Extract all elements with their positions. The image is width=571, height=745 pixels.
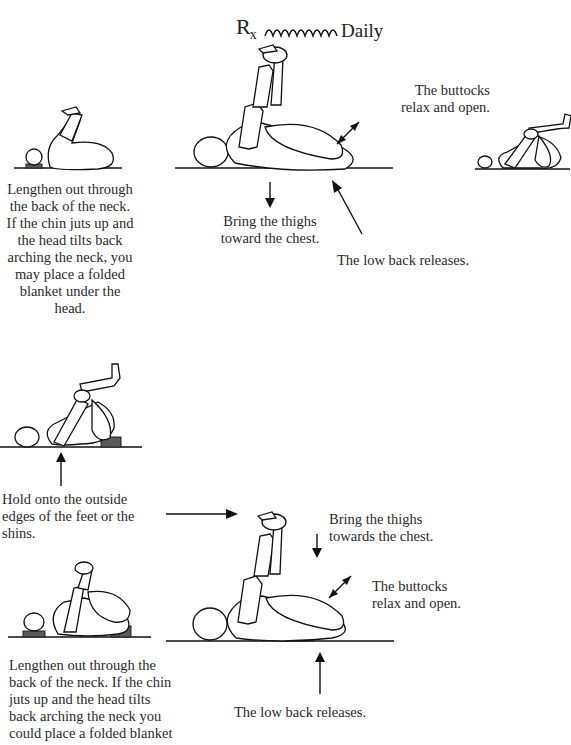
caption-line: back of the neck. If the chin <box>9 674 209 691</box>
callout-line: Bring the thighs <box>210 213 330 230</box>
bottom-buttocks-callout: The buttocks relax and open. <box>372 578 461 612</box>
double-arrow-icon <box>333 118 363 148</box>
bottom-left-caption: Lengthen out through the back of the nec… <box>9 657 209 742</box>
head-shape <box>193 608 227 640</box>
pose-figure-small-left <box>0 105 135 170</box>
rx-subscript: x <box>250 27 257 42</box>
callout-line: towards the chest. <box>329 528 433 545</box>
caption-line: may place a folded <box>0 266 140 283</box>
rx-symbol: Rx <box>236 14 258 40</box>
caption-line: head. <box>0 300 140 317</box>
top-thighs-callout: Bring the thighs toward the chest. <box>210 213 330 247</box>
caption-line: the head tilts back <box>0 232 140 249</box>
head-shape <box>15 427 39 447</box>
bottom-thighs-callout: Bring the thighs towards the chest. <box>329 511 433 545</box>
caption-line: edges of the feet or the <box>2 508 172 525</box>
bottom-low-back-callout: The low back releases. <box>234 704 366 721</box>
wavy-line-icon <box>263 24 341 38</box>
caption-line: arching the neck, you <box>0 249 140 266</box>
up-arrow-icon <box>55 452 67 486</box>
top-low-back-callout: The low back releases. <box>337 252 469 269</box>
rx-letter: R <box>236 14 251 39</box>
callout-line: The buttocks <box>372 578 461 595</box>
down-arrow-icon <box>311 534 323 558</box>
head-shape <box>194 137 228 167</box>
caption-line: Lengthen out through <box>0 181 140 198</box>
frequency-label: Daily <box>341 20 383 42</box>
head-shape <box>478 156 492 168</box>
callout-line: The buttocks <box>378 82 490 99</box>
caption-line: juts up and the head tilts <box>9 691 209 708</box>
caption-line: could place a folded blanket <box>9 725 209 742</box>
pose-figure-hold-feet <box>0 360 145 450</box>
callout-line: Bring the thighs <box>329 511 433 528</box>
pose-figure-small-bottom <box>8 558 153 640</box>
hold-caption: Hold onto the outside edges of the feet … <box>2 491 172 542</box>
down-arrow-icon <box>264 182 276 208</box>
head-shape <box>24 613 44 631</box>
caption-line: the back of the neck. <box>0 198 140 215</box>
top-buttocks-callout: The buttocks relax and open. <box>378 82 490 116</box>
head-shape <box>26 149 42 165</box>
callout-line: toward the chest. <box>210 230 330 247</box>
caption-line: If the chin juts up and <box>0 215 140 232</box>
caption-line: Lengthen out through the <box>9 657 209 674</box>
pose-figure-small-right <box>465 112 571 172</box>
caption-line: Hold onto the outside <box>2 491 172 508</box>
up-arrow-icon <box>314 652 326 694</box>
caption-line: blanket under the <box>0 283 140 300</box>
pose-figure-large-top <box>175 45 395 170</box>
double-arrow-icon <box>325 572 355 602</box>
diagonal-arrow-icon <box>330 180 366 236</box>
caption-line: back arching the neck you <box>9 708 209 725</box>
top-left-caption: Lengthen out through the back of the nec… <box>0 181 140 317</box>
callout-line: relax and open. <box>372 595 461 612</box>
caption-line: shins. <box>2 525 172 542</box>
blanket-prop <box>23 631 45 637</box>
